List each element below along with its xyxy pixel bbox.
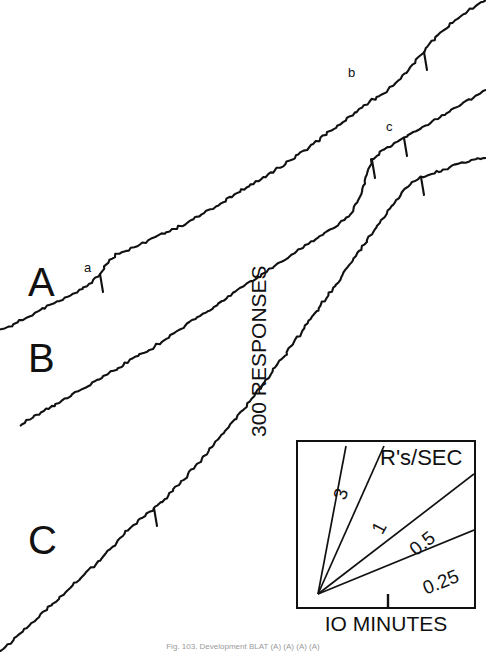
curve-letter-c: C — [28, 520, 57, 560]
event-marker-label-c: c — [386, 120, 393, 133]
inset-x-axis-label: IO MINUTES — [296, 613, 476, 634]
inset-y-axis-label: 300 RESPONSES — [248, 262, 269, 437]
figure-caption: Fig. 103. Development BLAT (A) (A) (A) (… — [0, 643, 486, 651]
inset-rate-units-label: R's/SEC — [380, 447, 462, 469]
cumulative-curve-a — [0, 0, 486, 329]
event-marker-label-b: b — [348, 66, 355, 79]
pip-marker — [372, 160, 375, 178]
slope-line-3 — [318, 446, 346, 594]
pip-marker — [154, 508, 157, 526]
pip-marker — [421, 177, 424, 195]
curve-letter-a: A — [28, 262, 55, 302]
pip-marker — [100, 274, 103, 292]
pip-marker — [404, 138, 407, 156]
pip-marker — [424, 52, 427, 70]
cumulative-record-figure: A B C a b c 300 RESPONSES R's/SEC 3 1 0.… — [0, 0, 486, 652]
event-marker-label-a: a — [84, 261, 91, 274]
curve-letter-b: B — [28, 338, 55, 378]
